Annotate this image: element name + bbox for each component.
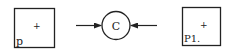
center-node-label: C [112, 20, 120, 33]
center-node: C [102, 12, 130, 40]
right-box-label: P1. [184, 33, 200, 44]
left-box-marker: + [33, 21, 41, 31]
left-box-label: p [16, 35, 23, 48]
left-box: + p [15, 9, 55, 49]
right-box-marker: + [200, 20, 208, 30]
right-box: + P1. [183, 8, 221, 46]
diagram-canvas: + p C + P1. [0, 0, 232, 49]
